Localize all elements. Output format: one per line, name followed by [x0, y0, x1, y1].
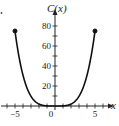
x-axis-label: x [110, 99, 116, 111]
y-tick-label: 60 [42, 41, 52, 51]
x-tick-label: 5 [93, 109, 98, 119]
y-tick-label: 80 [42, 21, 52, 31]
endpoint-dot [93, 29, 97, 33]
y-tick-label: 20 [42, 81, 52, 91]
y-axis-label: C(x) [47, 2, 67, 15]
endpoint-dot [13, 29, 17, 33]
stray-dot [1, 12, 3, 14]
chart: −50520406080 C(x) x [0, 0, 119, 126]
y-tick-label: 40 [42, 61, 52, 71]
x-tick-label: −5 [10, 109, 20, 119]
axes [1, 9, 114, 110]
x-tick-label: 0 [49, 109, 54, 119]
